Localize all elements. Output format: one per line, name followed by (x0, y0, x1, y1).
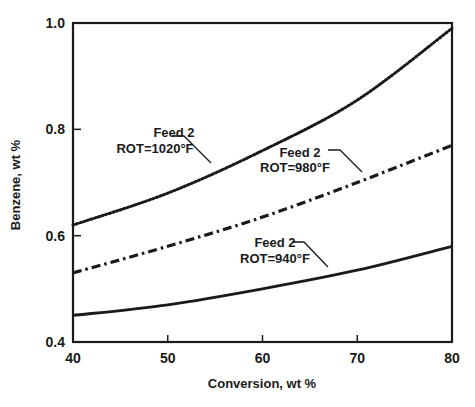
y-tick-label: 0.6 (46, 228, 66, 244)
y-axis-label: Benzene, wt % (8, 139, 23, 230)
leader-line-980 (328, 150, 362, 172)
x-tick-label: 60 (255, 350, 271, 366)
annotation-1020: Feed 2 ROT=1020°F (116, 125, 211, 163)
y-tick-label: 0.8 (46, 121, 66, 137)
plot-frame (73, 23, 452, 342)
y-tick-label: 1.0 (46, 15, 66, 31)
x-axis-ticks: 4050607080 (65, 335, 460, 366)
annotation-980-line1: Feed 2 (279, 145, 320, 160)
annotation-1020-line2: ROT=1020°F (116, 141, 193, 156)
annotation-980-line2: ROT=980°F (260, 160, 330, 175)
x-tick-label: 80 (444, 350, 460, 366)
annotation-980: Feed 2 ROT=980°F (260, 145, 362, 175)
x-tick-label: 40 (65, 350, 81, 366)
annotation-940-line2: ROT=940°F (240, 251, 310, 266)
annotation-940: Feed 2 ROT=940°F (240, 235, 328, 267)
annotation-940-line1: Feed 2 (254, 235, 295, 250)
x-tick-label: 70 (349, 350, 365, 366)
y-axis-ticks: 0.40.60.81.0 (46, 15, 81, 350)
benzene-vs-conversion-chart: 4050607080 0.40.60.81.0 Feed 2 ROT=1020°… (0, 0, 475, 407)
annotation-1020-line1: Feed 2 (153, 125, 194, 140)
x-tick-label: 50 (160, 350, 176, 366)
x-axis-label: Conversion, wt % (208, 376, 317, 391)
series-line-dotted (73, 28, 452, 225)
y-tick-label: 0.4 (46, 334, 66, 350)
